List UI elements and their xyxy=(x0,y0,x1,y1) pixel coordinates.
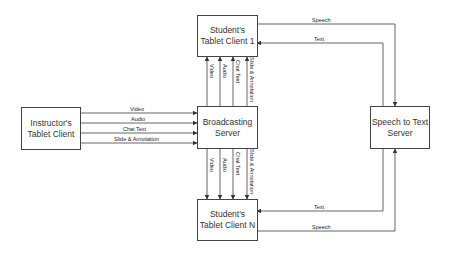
broadcasting-server-node: Broadcasting Server xyxy=(197,106,258,149)
edge-sn-text xyxy=(257,149,383,211)
instructor-client-node: Instructor's Tablet Client xyxy=(21,107,81,150)
label-s1-text: Text xyxy=(314,36,324,42)
label-sn-audio: Audio xyxy=(222,158,228,172)
student-client-1-node: Student's Tablet Client 1 xyxy=(197,15,258,57)
label-audio: Audio xyxy=(131,116,145,122)
label-sn-speech: Speech xyxy=(312,224,331,230)
label-s1-speech: Speech xyxy=(312,17,331,23)
edge-sn-speech xyxy=(257,149,395,231)
speech-to-text-server-node: Speech to Text Server xyxy=(370,106,430,149)
student-client-n-node: Student's Tablet Client N xyxy=(197,199,258,241)
edge-s1-text xyxy=(257,43,383,106)
label-sn-text: Text xyxy=(314,204,324,210)
label-slide: Slide & Annotation xyxy=(114,136,159,142)
label-s1-audio: Audio xyxy=(222,64,228,78)
label-sn-video: Video xyxy=(209,158,215,172)
edge-s1-speech xyxy=(257,24,395,106)
label-s1-slide: Slide & Annotation xyxy=(249,57,255,102)
label-s1-chat: Chat Text xyxy=(235,60,241,83)
label-sn-chat: Chat Text xyxy=(235,152,241,175)
label-s1-video: Video xyxy=(209,64,215,78)
label-sn-slide: Slide & Annotation xyxy=(249,149,255,194)
label-chat-text: Chat Text xyxy=(123,126,146,132)
label-video: Video xyxy=(130,106,144,112)
